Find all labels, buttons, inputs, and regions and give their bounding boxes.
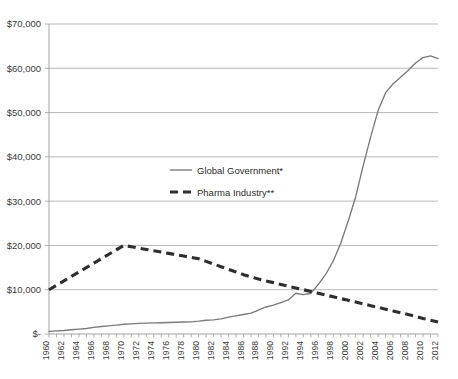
x-tick-label: 1984 bbox=[221, 341, 231, 360]
x-tick-label: 1964 bbox=[71, 341, 81, 360]
chart-legend: Global Government* Pharma Industry** bbox=[170, 165, 283, 198]
series-line-pharma-industry bbox=[49, 245, 438, 322]
y-tick-label: $50,000 bbox=[7, 107, 41, 118]
x-tick-label: 1992 bbox=[280, 341, 290, 360]
x-tick-label: 1976 bbox=[161, 341, 171, 360]
x-tick-label: 2008 bbox=[400, 341, 410, 360]
x-tick-label: 1996 bbox=[310, 341, 320, 360]
y-tick-label: $70,000 bbox=[7, 18, 41, 29]
y-tick-label: $30,000 bbox=[7, 196, 41, 207]
x-tick-label: 1962 bbox=[56, 341, 66, 360]
x-tick-label: 1974 bbox=[146, 341, 156, 360]
x-tick-label: 1968 bbox=[101, 341, 111, 360]
y-tick-label: $- bbox=[33, 328, 41, 339]
y-tick-label: $10,000 bbox=[7, 284, 41, 295]
x-tick-label: 2004 bbox=[370, 341, 380, 360]
x-axis-ticks bbox=[49, 334, 438, 338]
chart-container: $-$10,000$20,000$30,000$40,000$50,000$60… bbox=[0, 0, 458, 379]
y-tick-label: $60,000 bbox=[7, 63, 41, 74]
line-chart: $-$10,000$20,000$30,000$40,000$50,000$60… bbox=[0, 0, 458, 379]
x-tick-label: 1998 bbox=[325, 341, 335, 360]
x-tick-label: 1986 bbox=[236, 341, 246, 360]
y-tick-label: $40,000 bbox=[7, 151, 41, 162]
y-axis-labels: $-$10,000$20,000$30,000$40,000$50,000$60… bbox=[7, 18, 41, 339]
x-tick-label: 1972 bbox=[131, 341, 141, 360]
x-tick-label: 2000 bbox=[340, 341, 350, 360]
x-tick-label: 1978 bbox=[176, 341, 186, 360]
x-tick-label: 1982 bbox=[206, 341, 216, 360]
x-tick-label: 1980 bbox=[191, 341, 201, 360]
x-tick-label: 2010 bbox=[415, 341, 425, 360]
legend-label-global-government: Global Government* bbox=[197, 165, 283, 176]
x-tick-label: 1970 bbox=[116, 341, 126, 360]
x-tick-label: 1994 bbox=[295, 341, 305, 360]
gridlines-group bbox=[49, 24, 438, 290]
x-tick-label: 2002 bbox=[355, 341, 365, 360]
y-tick-label: $20,000 bbox=[7, 240, 41, 251]
x-tick-label: 1960 bbox=[41, 341, 51, 360]
x-tick-label: 1966 bbox=[86, 341, 96, 360]
x-tick-label: 1990 bbox=[265, 341, 275, 360]
x-tick-label: 2006 bbox=[385, 341, 395, 360]
x-axis-labels: 1960196219641966196819701972197419761978… bbox=[41, 341, 440, 360]
x-tick-label: 1988 bbox=[250, 341, 260, 360]
x-tick-label: 2012 bbox=[430, 341, 440, 360]
legend-label-pharma-industry: Pharma Industry** bbox=[197, 187, 274, 198]
y-axis-ticks bbox=[45, 24, 49, 334]
